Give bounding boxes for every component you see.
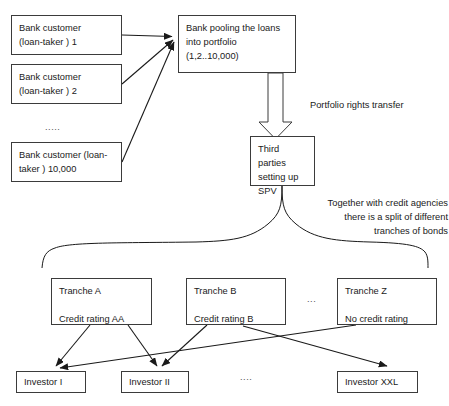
block-arrow-pooling-to-spv [259, 73, 292, 139]
edge-tranches-to-investors [56, 325, 387, 368]
node-bank-customer-2[interactable]: Bank customer (loan-taker ) 2 [11, 64, 122, 104]
node-third-parties-spv[interactable]: Third parties setting up SPV [250, 136, 315, 186]
node-investor-ii[interactable]: Investor II [121, 371, 189, 393]
investors-ellipsis: .... [240, 372, 252, 382]
node-investor-xxl[interactable]: Investor XXL [337, 371, 418, 393]
node-tranche-a[interactable]: Tranche A Credit rating AA [51, 278, 152, 325]
node-bank-customer-1[interactable]: Bank customer (loan-taker ) 1 [11, 15, 122, 55]
node-bank-pooling[interactable]: Bank pooling the loans into portfolio (1… [178, 15, 296, 73]
borrowers-ellipsis: ..... [45, 122, 60, 132]
label-tranche-split: Together with credit agencies there is a… [318, 196, 448, 238]
label-portfolio-rights-transfer: Portfolio rights transfer [310, 98, 448, 112]
node-bank-customer-10000[interactable]: Bank customer (loan- taker ) 10,000 [11, 142, 122, 182]
securitization-diagram: Bank customer (loan-taker ) 1 Bank custo… [0, 0, 449, 406]
node-tranche-z[interactable]: Tranche Z No credit rating [337, 278, 437, 325]
node-investor-i[interactable]: Investor I [16, 371, 86, 393]
edge-customers-to-pooling [122, 35, 174, 162]
node-tranche-b[interactable]: Tranche B Credit rating B [186, 278, 286, 325]
tranches-ellipsis: ... [307, 294, 316, 304]
